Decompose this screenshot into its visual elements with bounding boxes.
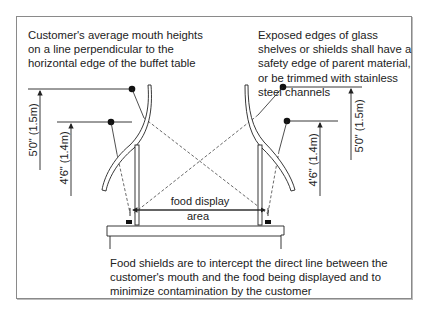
left-food-shield <box>102 85 151 225</box>
right-low-dimension: 4'6" (1.4m) <box>307 133 319 186</box>
food-display-label: food display <box>171 195 230 207</box>
left-high-dimension: 5'0" (1.5m) <box>27 103 39 156</box>
buffet-table <box>107 226 284 249</box>
right-dimension-lines <box>283 87 362 196</box>
left-low-dimension: 4'6" (1.4m) <box>58 131 70 184</box>
mouth-point-icons <box>108 84 291 126</box>
right-high-dimension: 5'0" (1.5m) <box>353 99 365 152</box>
left-dimension-lines <box>28 89 132 196</box>
area-label: area <box>187 210 210 222</box>
food-shield-diagram: 5'0" (1.5m) 4'6" (1.4m) 5'0" (1.5m) 4'6"… <box>0 0 421 319</box>
right-food-shield <box>245 85 295 225</box>
